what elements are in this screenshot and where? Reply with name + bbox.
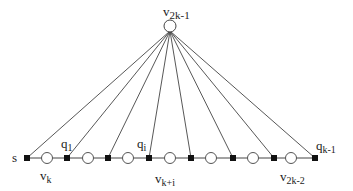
label-vk: vk [40, 168, 52, 185]
q-node [105, 155, 111, 161]
v-node [248, 153, 259, 164]
fan-edge [170, 31, 274, 158]
q-node [24, 155, 30, 161]
q-node [146, 155, 152, 161]
q-node [271, 155, 277, 161]
v-node [206, 153, 217, 164]
apex-label: v2k-1 [163, 4, 190, 21]
label-q1: q1 [61, 136, 73, 153]
q-node [312, 155, 318, 161]
label-vk+i: vk+i [155, 171, 175, 188]
label-qk-1: qk-1 [316, 138, 336, 155]
fan-edge [149, 31, 170, 158]
fan-edge [67, 31, 170, 158]
label-v2k-2: v2k-2 [280, 169, 305, 186]
fan-edge [170, 31, 233, 158]
fan-edge [27, 31, 170, 158]
q-node [230, 155, 236, 161]
v-node [286, 153, 297, 164]
path-nodes [24, 153, 318, 164]
v-node [165, 153, 176, 164]
v-node [123, 153, 134, 164]
fan-edge [170, 31, 191, 158]
apex-node [164, 20, 176, 32]
diagram-canvas: v2k-1 s q1 qi qk-1 vk vk+i v2k-2 [0, 0, 353, 191]
fan-edge [170, 31, 315, 158]
q-node [64, 155, 70, 161]
v-node [42, 153, 53, 164]
v-node [83, 153, 94, 164]
q-node [188, 155, 194, 161]
fan-edges [27, 31, 315, 158]
label-qi: qi [137, 136, 147, 153]
label-s: s [12, 150, 17, 165]
